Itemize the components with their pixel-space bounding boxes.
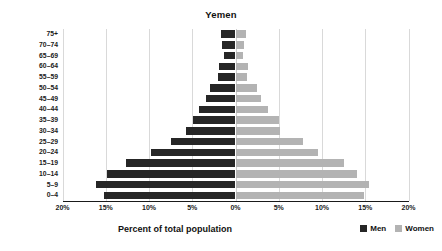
bar-women-10–14 bbox=[236, 170, 357, 178]
pyramid-row bbox=[63, 115, 409, 126]
chart-legend: MenWomen bbox=[360, 224, 434, 233]
bar-men-30–34 bbox=[186, 127, 235, 135]
bar-women-75+ bbox=[236, 30, 246, 38]
bar-women-15–19 bbox=[236, 159, 345, 167]
age-label-45–49: 45–49 bbox=[16, 94, 58, 105]
x-tick-label: 20% bbox=[43, 204, 83, 211]
bar-women-70–74 bbox=[236, 41, 245, 49]
bar-men-75+ bbox=[221, 30, 235, 38]
age-label-5–9: 5–9 bbox=[16, 180, 58, 191]
pyramid-row bbox=[63, 51, 409, 62]
bar-men-25–29 bbox=[171, 138, 235, 146]
bar-women-60–64 bbox=[236, 63, 249, 71]
bar-men-45–49 bbox=[206, 95, 235, 103]
age-label-55–59: 55–59 bbox=[16, 72, 58, 83]
bar-women-35–39 bbox=[236, 116, 279, 124]
pyramid-row bbox=[63, 83, 409, 94]
pyramid-row bbox=[63, 169, 409, 180]
bar-men-40–44 bbox=[199, 106, 236, 114]
pyramid-row bbox=[63, 126, 409, 137]
bar-men-15–19 bbox=[126, 159, 236, 167]
bar-men-0–4 bbox=[104, 192, 235, 200]
bar-women-20–24 bbox=[236, 149, 318, 157]
age-label-10–14: 10–14 bbox=[16, 169, 58, 180]
bar-women-5–9 bbox=[236, 181, 369, 189]
pyramid-row bbox=[63, 180, 409, 191]
legend-label: Women bbox=[405, 224, 434, 233]
legend-swatch-icon bbox=[395, 225, 402, 232]
bar-women-45–49 bbox=[236, 95, 261, 103]
bar-men-5–9 bbox=[96, 181, 235, 189]
bar-women-55–59 bbox=[236, 73, 248, 81]
pyramid-row bbox=[63, 104, 409, 115]
age-label-25–29: 25–29 bbox=[16, 137, 58, 148]
bar-men-35–39 bbox=[193, 116, 235, 124]
y-axis-age-labels: 0–45–910–1415–1920–2425–2930–3435–3940–4… bbox=[12, 29, 58, 201]
age-label-20–24: 20–24 bbox=[16, 147, 58, 158]
age-label-0–4: 0–4 bbox=[16, 190, 58, 201]
age-label-35–39: 35–39 bbox=[16, 115, 58, 126]
legend-label: Men bbox=[370, 224, 386, 233]
age-label-50–54: 50–54 bbox=[16, 83, 58, 94]
bar-men-60–64 bbox=[219, 63, 235, 71]
x-tick-label: 5% bbox=[172, 204, 212, 211]
x-tick-label: 0% bbox=[216, 204, 256, 211]
bar-women-50–54 bbox=[236, 84, 258, 92]
x-axis-baseline bbox=[63, 201, 409, 202]
legend-item-women[interactable]: Women bbox=[395, 224, 434, 233]
age-label-15–19: 15–19 bbox=[16, 158, 58, 169]
bar-men-20–24 bbox=[151, 149, 236, 157]
age-label-65–69: 65–69 bbox=[16, 51, 58, 62]
bar-women-40–44 bbox=[236, 106, 268, 114]
x-tick-label: 20% bbox=[389, 204, 429, 211]
age-label-75+: 75+ bbox=[16, 29, 58, 40]
x-axis-title: Percent of total population bbox=[0, 224, 350, 234]
legend-item-men[interactable]: Men bbox=[360, 224, 386, 233]
bar-women-25–29 bbox=[236, 138, 303, 146]
bar-men-10–14 bbox=[107, 170, 235, 178]
plot-area bbox=[63, 29, 409, 201]
bar-women-65–69 bbox=[236, 52, 243, 60]
pyramid-row bbox=[63, 40, 409, 51]
x-axis-tick-labels: 20%15%10%5%0%5%10%15%20% bbox=[0, 204, 442, 216]
pyramid-row bbox=[63, 94, 409, 105]
x-tick-label: 10% bbox=[302, 204, 342, 211]
chart-title: Yemen bbox=[0, 9, 442, 20]
gridline-20 bbox=[409, 29, 410, 201]
pyramid-row bbox=[63, 61, 409, 72]
bar-men-70–74 bbox=[222, 41, 235, 49]
bar-women-30–34 bbox=[236, 127, 280, 135]
x-tick-label: 15% bbox=[86, 204, 126, 211]
bar-men-65–69 bbox=[224, 52, 235, 60]
pyramid-row bbox=[63, 29, 409, 40]
age-label-60–64: 60–64 bbox=[16, 61, 58, 72]
pyramid-row bbox=[63, 158, 409, 169]
age-label-70–74: 70–74 bbox=[16, 40, 58, 51]
pyramid-row bbox=[63, 190, 409, 201]
age-label-40–44: 40–44 bbox=[16, 104, 58, 115]
pyramid-row bbox=[63, 72, 409, 83]
population-pyramid-chart: Yemen 0–45–910–1415–1920–2425–2930–3435–… bbox=[0, 0, 442, 251]
x-tick-label: 10% bbox=[129, 204, 169, 211]
age-label-30–34: 30–34 bbox=[16, 126, 58, 137]
bar-women-0–4 bbox=[236, 192, 365, 200]
bar-men-55–59 bbox=[218, 73, 236, 81]
bar-men-50–54 bbox=[210, 84, 235, 92]
pyramid-row bbox=[63, 137, 409, 148]
legend-swatch-icon bbox=[360, 225, 367, 232]
pyramid-row bbox=[63, 147, 409, 158]
x-tick-label: 5% bbox=[259, 204, 299, 211]
x-tick-label: 15% bbox=[345, 204, 385, 211]
